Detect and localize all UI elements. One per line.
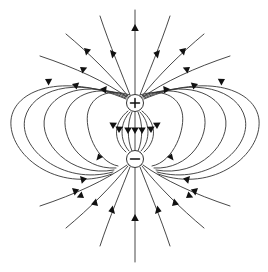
dipole-figure [0, 0, 268, 272]
dipole-field-diagram [0, 0, 268, 272]
positive-charge[interactable] [127, 95, 144, 112]
figure-background [0, 0, 268, 272]
negative-charge[interactable] [127, 151, 144, 168]
